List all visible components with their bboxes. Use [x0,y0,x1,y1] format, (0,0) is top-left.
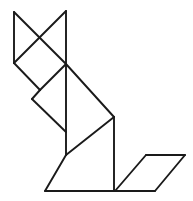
tangram-edge-back-diagonal [66,64,114,117]
tangram-edge-head-lower-left [14,63,40,90]
tangram-edge-neck-lower [32,99,66,132]
tangram-edge-neck-upper [32,90,40,99]
tangram-edge-belly-diagonal [66,117,114,155]
tangram-drawing [0,0,193,201]
tangram-edge-foot-diagonal [45,155,66,191]
tangram-edge-tail-left-slant [115,155,146,191]
tangram-edge-head-lower-right [40,64,66,90]
tangram-edge-tail-right-slant [155,155,185,191]
tangram-figure-canvas [0,0,193,201]
tangram-edge-layer [14,11,185,191]
